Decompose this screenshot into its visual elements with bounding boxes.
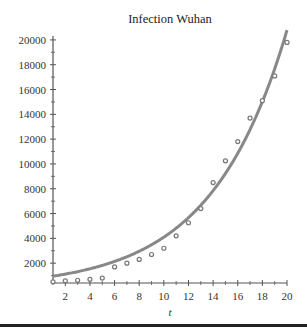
y-tick-label: 12000 — [19, 133, 47, 145]
x-axis-label: t — [168, 306, 172, 318]
data-point — [223, 159, 227, 163]
x-tick-label: 14 — [208, 290, 220, 302]
fit-curve — [53, 30, 287, 276]
data-point — [150, 252, 154, 256]
x-tick-label: 18 — [257, 290, 269, 302]
data-point — [113, 265, 117, 269]
data-point — [137, 257, 141, 261]
chart-title: Infection Wuhan — [128, 12, 212, 26]
data-point — [100, 276, 104, 280]
x-tick-label: 6 — [112, 290, 118, 302]
bottom-divider — [0, 324, 307, 327]
x-tick-label: 4 — [87, 290, 93, 302]
data-point — [162, 246, 166, 250]
y-tick-label: 16000 — [19, 84, 47, 96]
y-tick-label: 2000 — [24, 257, 47, 269]
y-tick-label: 20000 — [19, 34, 47, 46]
data-point — [125, 261, 129, 265]
x-tick-label: 10 — [158, 290, 170, 302]
y-tick-label: 6000 — [24, 208, 47, 220]
x-axis: 2468101214161820 — [53, 280, 293, 302]
y-tick-label: 18000 — [19, 59, 47, 71]
y-tick-label: 14000 — [19, 108, 47, 120]
data-point — [248, 116, 252, 120]
data-point — [199, 207, 203, 211]
x-tick-label: 2 — [63, 290, 69, 302]
data-point — [285, 40, 289, 44]
data-point — [260, 99, 264, 103]
x-tick-label: 8 — [136, 290, 142, 302]
data-point — [76, 278, 80, 282]
y-tick-label: 4000 — [24, 232, 47, 244]
data-point — [236, 140, 240, 144]
y-axis: 2000400060008000100001200014000160001800… — [19, 34, 57, 283]
data-point — [174, 234, 178, 238]
x-tick-label: 12 — [183, 290, 194, 302]
chart: Infection Wuhan 200040006000800010000120… — [0, 0, 307, 332]
data-point — [273, 74, 277, 78]
y-tick-label: 10000 — [19, 158, 47, 170]
data-point — [211, 181, 215, 185]
data-point — [51, 280, 55, 284]
data-points — [51, 40, 289, 283]
data-point — [88, 277, 92, 281]
y-tick-label: 8000 — [24, 183, 47, 195]
x-tick-label: 20 — [282, 290, 294, 302]
data-point — [63, 279, 67, 283]
x-tick-label: 16 — [232, 290, 244, 302]
data-point — [186, 221, 190, 225]
